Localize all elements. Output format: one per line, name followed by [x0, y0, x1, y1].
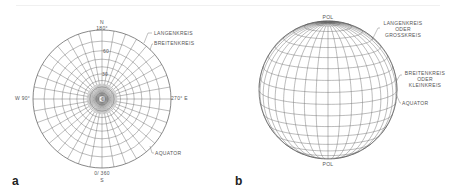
parallel-callout: BREITENKREIS — [154, 40, 195, 46]
equator-callout: AQUATOR — [155, 150, 181, 156]
south-pole-label: POL — [323, 161, 334, 167]
meridian-callout: LANGENKREIS — [154, 30, 193, 36]
north-pole-label: POL — [323, 14, 334, 20]
panel-a-label: a — [12, 174, 19, 188]
east-label: 270° E — [171, 95, 188, 101]
equator-callout-b: AQUATOR — [402, 100, 428, 106]
center-label: 0 — [101, 96, 104, 102]
meridian-leader — [144, 33, 152, 43]
ring-60-label: 60 — [103, 48, 109, 54]
meridian-callout-l3: GROSSKREIS — [385, 32, 421, 38]
panel-b-label: b — [235, 174, 242, 188]
panel-b-labels: POL POL LANGENKREIS ODER GROSSKREIS BREI… — [235, 14, 445, 188]
figure: N 180° 60 30 0 W 90° 270° E 0/ 360 S LAN… — [0, 0, 456, 192]
top-degree-label: 180° — [96, 25, 108, 31]
ring-30-label: 30 — [102, 71, 108, 77]
parallel-leader-b — [396, 75, 402, 82]
parallel-callout-l3: KLEINKREIS — [409, 82, 442, 88]
west-label: W 90° — [15, 95, 30, 101]
south-label: S — [100, 177, 104, 183]
parallel-leader — [150, 44, 153, 50]
globe-grid-diagram — [259, 21, 397, 159]
bottom-degree-label: 0/ 360 — [94, 170, 110, 176]
